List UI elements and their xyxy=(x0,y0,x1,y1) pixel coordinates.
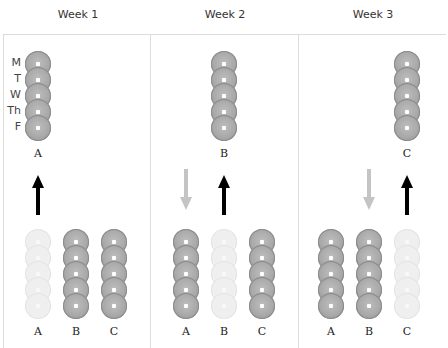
week-1-label-a: A xyxy=(25,325,51,338)
disc-icon xyxy=(394,293,420,319)
week-1-offsite-label: A xyxy=(25,147,51,160)
disc-icon xyxy=(25,293,51,319)
week-2-offsite-label: B xyxy=(211,147,237,160)
arrow-up-icon xyxy=(218,175,230,217)
arrow-down-icon xyxy=(180,169,192,211)
day-label-tuesday: T xyxy=(3,72,21,85)
week-1-label-b: B xyxy=(63,325,89,338)
week-1-label-c: C xyxy=(101,325,127,338)
week-1-title: Week 1 xyxy=(3,8,153,21)
week-2-label-b: B xyxy=(211,325,237,338)
day-label-wednesday: W xyxy=(3,88,21,101)
disc-icon xyxy=(101,293,127,319)
arrow-up-icon xyxy=(401,175,413,217)
week-3-label-c: C xyxy=(394,325,420,338)
disc-icon xyxy=(394,115,420,141)
week-2-label-a: A xyxy=(173,325,199,338)
arrow-down-icon xyxy=(363,169,375,211)
day-label-thursday: Th xyxy=(3,104,21,117)
week-3-label-b: B xyxy=(356,325,382,338)
week-2-title: Week 2 xyxy=(150,8,300,21)
disc-icon xyxy=(211,293,237,319)
disc-icon xyxy=(211,115,237,141)
week-2-label-c: C xyxy=(249,325,275,338)
day-label-friday: F xyxy=(3,120,21,133)
disc-icon xyxy=(356,293,382,319)
day-label-monday: M xyxy=(3,56,21,69)
week-3-label-a: A xyxy=(318,325,344,338)
week-3-title: Week 3 xyxy=(298,8,448,21)
disc-icon xyxy=(173,293,199,319)
week-3-offsite-label: C xyxy=(394,147,420,160)
disc-icon xyxy=(25,115,51,141)
disc-icon xyxy=(63,293,89,319)
disc-icon xyxy=(318,293,344,319)
arrow-up-icon xyxy=(32,175,44,217)
disc-icon xyxy=(249,293,275,319)
